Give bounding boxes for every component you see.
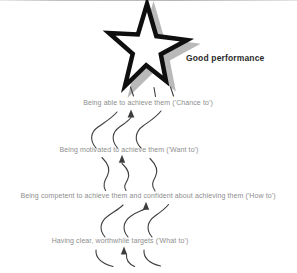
arrowhead-chance-to <box>128 110 135 118</box>
arrowhead-want-to <box>119 155 125 163</box>
level-text-chance-to: Being able to achieve them ('Chance to') <box>83 99 213 107</box>
arrowheads <box>119 110 149 255</box>
flow-arrows-group-3 <box>101 205 168 238</box>
arrowhead-how-to <box>143 202 149 210</box>
arrowhead-what-to <box>121 247 127 255</box>
good-performance-label: Good performance <box>186 53 264 63</box>
flow-arrows-group-2 <box>102 158 157 192</box>
level-text-want-to: Being motivated to achieve them ('Want t… <box>60 146 199 154</box>
level-text-what-to: Having clear, worthwhile targets ('What … <box>52 237 189 245</box>
flow-arrows-group-1 <box>92 111 161 148</box>
diagram-shapes <box>0 0 297 273</box>
performance-star-diagram: Good performance Being able to achieve t… <box>0 0 297 273</box>
flow-arrows-group-4 <box>96 250 161 267</box>
level-text-how-to: Being competent to achieve them and conf… <box>20 192 275 200</box>
